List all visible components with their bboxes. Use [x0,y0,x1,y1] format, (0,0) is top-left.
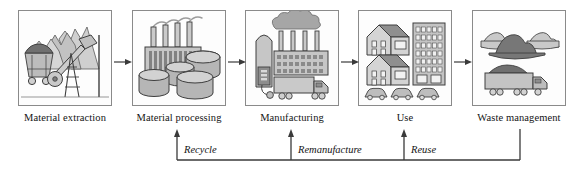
loop-riser-recycle [174,129,180,160]
factory-smokestacks-storage-tanks-icon [133,11,225,105]
loop-label-reuse: Reuse [411,144,436,155]
flow-arrow-extraction-to-processing [114,53,132,63]
flow-arrow-manufacturing-to-use [341,53,359,63]
loop-label-remanufacture: Remanufacture [298,144,362,155]
loop-riser-reuse [401,129,407,160]
stage-panel-material-processing [132,10,226,106]
loop-riser-remanufacture [288,129,294,160]
flow-arrow-use-to-waste [454,53,472,63]
stage-label-waste-management: Waste management [444,112,580,123]
mining-cart-oil-pump-mountains-icon [19,11,111,105]
stage-panel-use [358,10,452,106]
stage-panel-manufacturing [245,10,339,106]
stage-panel-material-extraction [18,10,112,106]
waste-piles-dump-truck-icon [473,11,565,105]
lifecycle-diagram: Material extraction Material processing … [0,0,580,175]
houses-apartment-cars-icon [359,11,451,105]
factory-smoke-cloud-truck-icon [246,11,338,105]
loop-label-recycle: Recycle [184,144,217,155]
flow-arrow-processing-to-manufacturing [228,53,246,63]
stage-panel-waste-management [472,10,566,106]
